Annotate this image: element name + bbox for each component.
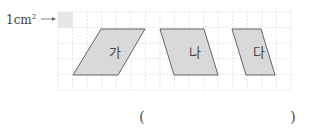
shape-label: 나	[189, 45, 201, 60]
parallelogram-3: 다	[232, 29, 275, 75]
answer-open-paren: (	[139, 108, 145, 126]
answer-close-paren: )	[290, 108, 296, 126]
shapes-group: 가나다	[73, 29, 275, 75]
answer-blank[interactable]	[152, 108, 288, 128]
arrow-icon	[41, 17, 56, 21]
unit-square	[58, 12, 73, 28]
shape-label: 다	[253, 45, 265, 60]
parallelogram-2: 나	[160, 29, 218, 75]
shape-label: 가	[109, 45, 121, 60]
parallelogram-1: 가	[73, 29, 145, 75]
